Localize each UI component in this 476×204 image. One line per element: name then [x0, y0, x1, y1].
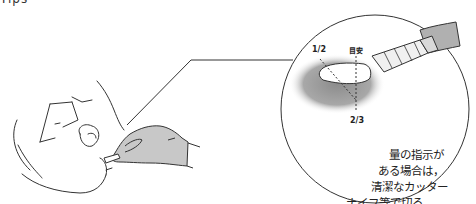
shadow-area — [289, 54, 385, 114]
caption-line: ある場合は， — [330, 163, 444, 179]
suppository-icon — [319, 63, 371, 84]
caption-line: ナイフ等で切る。 — [330, 195, 434, 204]
gloved-hand-icon — [104, 126, 200, 168]
illustration: Tips — [0, 0, 476, 204]
cut-off-heading: Tips — [0, 0, 28, 6]
two-thirds-label: 2/3 — [350, 116, 364, 125]
half-label: 1/2 — [312, 45, 326, 54]
patient-face-icon — [14, 81, 124, 193]
guide-label: 目安 — [349, 45, 363, 55]
connector-line — [127, 60, 293, 125]
caption-line: 量の指示が — [330, 147, 444, 163]
instruction-caption: 量の指示が ある場合は， 清潔なカッター ナイフ等で切る。 — [330, 147, 452, 204]
caption-line: 清潔なカッター — [330, 179, 448, 195]
